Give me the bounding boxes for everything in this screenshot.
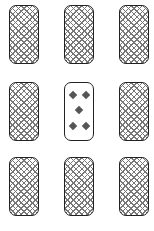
diamond-pip-icon bbox=[75, 106, 83, 114]
diamond-pip-icon bbox=[69, 122, 77, 130]
card-r1-c2-face-down[interactable] bbox=[64, 5, 94, 64]
card-r2-c1-face-down[interactable] bbox=[9, 82, 39, 141]
diamond-pip-icon bbox=[82, 122, 90, 130]
card-r3-c2-face-down[interactable] bbox=[64, 157, 94, 216]
card-five-of-diamonds[interactable] bbox=[64, 82, 94, 141]
card-r2-c3-face-down[interactable] bbox=[119, 82, 149, 141]
diamond-pip-icon bbox=[69, 91, 77, 99]
diamond-pip-icon bbox=[82, 91, 90, 99]
card-r3-c3-face-down[interactable] bbox=[119, 157, 149, 216]
card-r1-c1-face-down[interactable] bbox=[9, 5, 39, 64]
card-r1-c3-face-down[interactable] bbox=[119, 5, 149, 64]
card-r3-c1-face-down[interactable] bbox=[9, 157, 39, 216]
